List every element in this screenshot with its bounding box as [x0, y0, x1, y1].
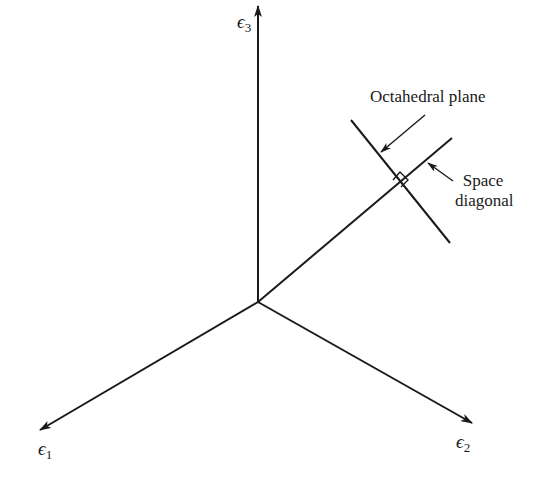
space-diagonal-leader-arrow [428, 163, 453, 181]
e2-axis-label: ϵ2 [456, 432, 470, 454]
e2-axis [258, 302, 472, 423]
octahedral-plane-label: Octahedral plane [370, 88, 486, 105]
space-diagonal-label: Space diagonal [455, 172, 511, 209]
e1-axis-label: ϵ1 [38, 439, 52, 461]
e1-subscript: 1 [46, 447, 53, 462]
e3-subscript: 3 [245, 20, 252, 35]
e3-axis-label: ϵ3 [237, 12, 251, 34]
space-diagonal-line [258, 138, 452, 302]
e2-symbol: ϵ [456, 431, 464, 452]
strain-space-diagram [0, 0, 553, 482]
e1-axis [40, 302, 258, 430]
octahedral-plane-leader-arrow [381, 115, 425, 152]
e3-symbol: ϵ [237, 11, 245, 32]
space-diagonal-label-line1: Space [455, 172, 511, 189]
e1-symbol: ϵ [38, 438, 46, 459]
e2-subscript: 2 [464, 440, 471, 455]
space-diagonal-label-line2: diagonal [455, 192, 511, 209]
octahedral-plane-line [351, 120, 450, 243]
